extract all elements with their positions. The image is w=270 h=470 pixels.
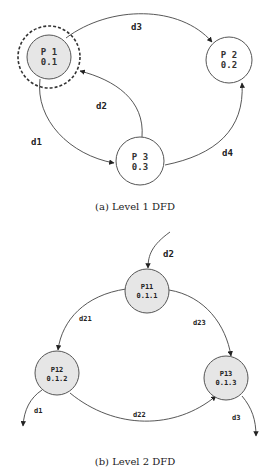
process-p1: P 1 0.1 [18,26,80,88]
process-p11: P11 0.1.1 [125,269,169,313]
process-p2: P 2 0.2 [206,37,252,83]
p2-name: P 2 [221,50,237,60]
label-d1-out: d1 [34,407,42,415]
p12-name: P12 [51,366,64,374]
flow-d21 [58,289,126,350]
caption-level1: (a) Level 1 DFD [0,201,270,212]
label-d22: d22 [133,411,146,419]
flow-d3-out [242,396,256,436]
p1-name: P 1 [41,47,57,57]
label-d3-out: d3 [232,414,240,422]
p11-name: P11 [141,283,154,291]
flow-d2 [80,71,142,137]
p1-number: 0.1 [41,57,57,67]
flow-d1 [40,79,114,163]
label-d21: d21 [79,315,92,323]
caption-level2: (b) Level 2 DFD [0,456,270,467]
label-d3: d3 [131,22,142,32]
p13-name: P13 [220,370,233,378]
label-d1: d1 [31,137,42,147]
label-d4: d4 [222,148,233,158]
level1-diagram: P 1 0.1 P 2 0.2 P 3 0.3 d3 d2 d1 d4 [18,14,252,185]
dfd-diagram: P 1 0.1 P 2 0.2 P 3 0.3 d3 d2 d1 d4 [0,0,270,470]
label-d2: d2 [96,101,107,111]
p12-number: 0.1.2 [46,375,67,383]
p2-number: 0.2 [221,60,237,70]
p3-name: P 3 [132,152,148,162]
process-p12: P12 0.1.2 [35,351,79,395]
level2-diagram: P11 0.1.1 P12 0.1.2 P13 0.1.3 d2 d21 d23… [23,232,256,436]
p11-number: 0.1.1 [136,292,157,300]
label-d2-in: d2 [163,249,174,259]
process-p3: P 3 0.3 [116,137,164,185]
p3-number: 0.3 [132,162,148,172]
p13-number: 0.1.3 [215,379,236,387]
label-d23: d23 [193,319,206,327]
process-p13: P13 0.1.3 [204,356,248,400]
